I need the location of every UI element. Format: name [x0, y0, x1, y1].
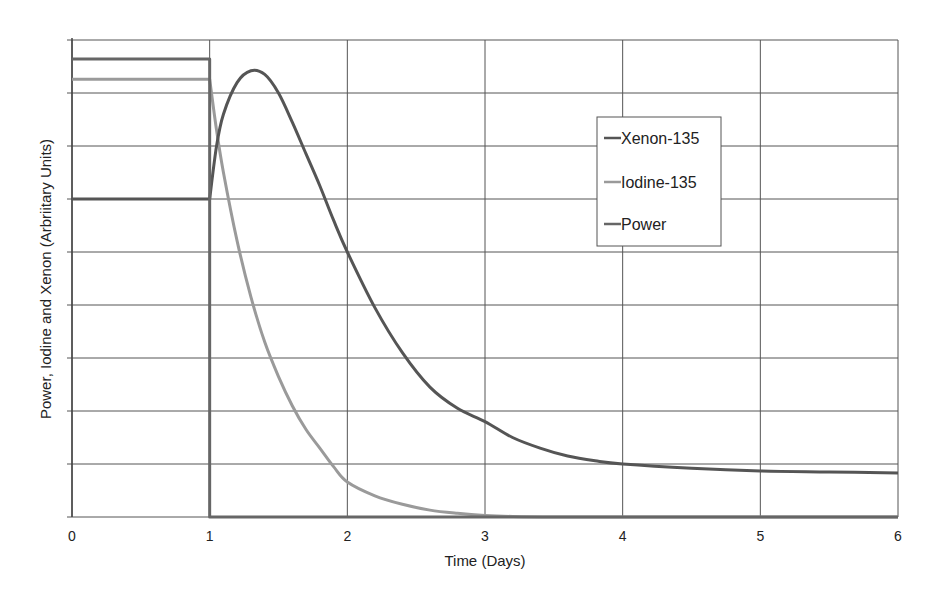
y-axis-title: Power, Iodine and Xenon (Arbriitary Unit… — [37, 139, 54, 419]
x-tick-label: 4 — [619, 528, 627, 544]
x-tick-label: 5 — [756, 528, 764, 544]
x-tick-label: 0 — [68, 528, 76, 544]
x-tick-label: 3 — [481, 528, 489, 544]
x-tick-label: 1 — [206, 528, 214, 544]
legend-label-power: Power — [621, 216, 667, 233]
legend-label-xenon: Xenon-135 — [621, 130, 699, 147]
x-tick-label: 2 — [343, 528, 351, 544]
x-tick-label: 6 — [894, 528, 902, 544]
xenon-iodine-power-chart: 0123456 Time (Days) Power, Iodine and Xe… — [0, 0, 938, 601]
chart-background — [0, 0, 938, 601]
x-axis-title: Time (Days) — [444, 552, 525, 569]
legend: Xenon-135 Iodine-135 Power — [597, 117, 721, 246]
legend-label-iodine: Iodine-135 — [621, 174, 697, 191]
